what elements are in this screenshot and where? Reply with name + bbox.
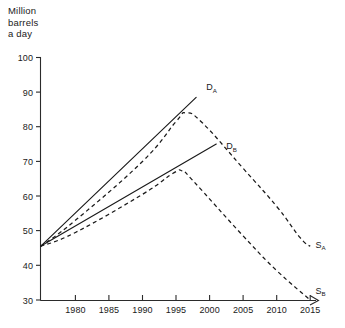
series-line-d-b [41, 144, 217, 246]
series-line-s-b [41, 170, 311, 300]
y-tick-label-60: 60 [23, 192, 33, 202]
x-tick-label-2015: 2015 [300, 305, 320, 315]
series-line-s-a [41, 113, 311, 247]
y-tick-label-70: 70 [23, 157, 33, 167]
chart-svg: 100 90 80 70 60 50 40 30 1980 1985 1990 … [0, 0, 345, 328]
y-tick-label-30: 30 [23, 296, 33, 306]
series-label-d-b: DB [226, 141, 237, 152]
series-label-s-b: SB [316, 286, 326, 297]
y-tick-label-100: 100 [18, 53, 33, 63]
series-line-d-a [41, 97, 197, 246]
x-tick-label-2005: 2005 [233, 305, 253, 315]
y-tick-label-80: 80 [23, 122, 33, 132]
x-tick-label-2010: 2010 [266, 305, 286, 315]
x-tick-label-1980: 1980 [65, 305, 85, 315]
y-tick-label-50: 50 [23, 226, 33, 236]
x-tick-label-1995: 1995 [166, 305, 186, 315]
y-tick-label-40: 40 [23, 261, 33, 271]
x-tick-label-1990: 1990 [132, 305, 152, 315]
series-label-d-a: DA [206, 82, 218, 93]
x-tick-label-1985: 1985 [99, 305, 119, 315]
x-tick-label-2000: 2000 [199, 305, 219, 315]
chart-page: Millionbarrelsa day 100 90 80 70 60 50 4… [0, 0, 345, 328]
y-tick-label-90: 90 [23, 88, 33, 98]
series-label-s-a: SA [316, 240, 327, 251]
